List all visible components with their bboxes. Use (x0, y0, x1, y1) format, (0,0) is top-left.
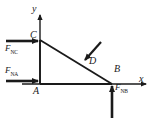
x-axis-label: x (139, 74, 143, 84)
force-label-FNA: FNA (5, 66, 18, 77)
force-label-FNB: FNB (115, 83, 128, 94)
point-label-C: C (30, 30, 37, 40)
point-label-A: A (33, 86, 39, 96)
member-CB (40, 40, 112, 84)
force-label-FNC: FNC (5, 44, 18, 55)
force-subscript-FNC: NC (11, 49, 18, 55)
diagram-canvas (0, 0, 152, 122)
free-body-diagram: y x C A B D FNC FNA FNB (0, 0, 152, 122)
point-label-D: D (89, 56, 96, 66)
force-subscript-FNA: NA (11, 71, 19, 77)
force-subscript-FNB: NB (121, 88, 128, 94)
y-axis-label: y (32, 4, 36, 14)
point-label-B: B (114, 64, 120, 74)
